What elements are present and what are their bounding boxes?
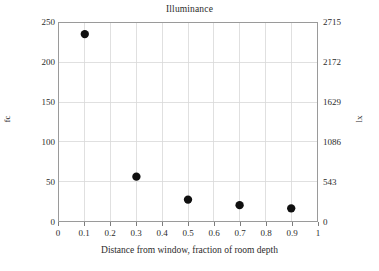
data-points-layer [59,23,317,221]
x-axis-tick-label: 0.9 [286,228,297,238]
x-axis-tick-label: 0.6 [208,228,219,238]
x-axis-tick-label: 1 [316,228,321,238]
x-axis-tick-label: 0.5 [182,228,193,238]
y-axis-left-tick-label: 0 [51,217,56,227]
y-axis-right-tick-label: 2715 [323,17,341,27]
x-axis-tick-label: 0.3 [130,228,141,238]
data-point [184,195,192,203]
y-axis-right-tick-label: 543 [323,177,337,187]
x-axis-tick-mark [110,222,111,226]
y-axis-left-tick-label: 100 [42,137,56,147]
x-axis-tick-label: 0 [56,228,61,238]
x-axis-tick-mark [136,222,137,226]
x-axis-tick-label: 0.8 [260,228,271,238]
chart-title: Illuminance [0,4,379,14]
y-axis-right-tick-label: 0 [323,217,328,227]
x-axis-tick-mark [188,222,189,226]
x-axis-tick-mark [240,222,241,226]
x-axis-tick-mark [162,222,163,226]
x-axis-tick-label: 0.2 [104,228,115,238]
data-point [132,172,140,180]
x-axis-label: Distance from window, fraction of room d… [0,245,379,255]
x-axis-tick-label: 0.7 [234,228,245,238]
x-axis-tick-mark [214,222,215,226]
x-axis-tick-mark [58,222,59,226]
y-axis-left-tick-label: 250 [42,17,56,27]
x-axis-tick-mark [318,222,319,226]
y-axis-left-label: fc [2,116,12,123]
y-axis-right-tick-label: 2172 [323,57,341,67]
x-axis-tick-label: 0.4 [156,228,167,238]
y-axis-left-tick-label: 50 [46,177,55,187]
y-axis-right-label: lx [354,115,364,122]
x-axis-tick-mark [292,222,293,226]
illuminance-chart-figure: Illuminance 050100150200250 054310861629… [0,0,379,271]
data-point [287,204,295,212]
plot-area [58,22,318,222]
y-axis-left-tick-label: 200 [42,57,56,67]
data-point [235,201,243,209]
y-axis-right-tick-label: 1086 [323,137,341,147]
x-axis-tick-label: 0.1 [78,228,89,238]
y-axis-right-tick-label: 1629 [323,97,341,107]
y-axis-left-tick-label: 150 [42,97,56,107]
x-axis-tick-mark [84,222,85,226]
x-axis-tick-mark [266,222,267,226]
data-point [81,30,89,38]
